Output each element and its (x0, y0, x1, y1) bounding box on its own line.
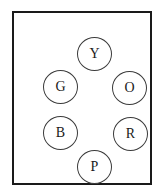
circle-node-b[interactable]: B (43, 116, 78, 150)
circle-label-y: Y (89, 47, 99, 61)
diagram-canvas: Y G O B R P (0, 0, 164, 195)
circle-node-g[interactable]: G (43, 70, 78, 104)
circle-node-y[interactable]: Y (77, 37, 112, 71)
circle-node-p[interactable]: P (77, 150, 112, 184)
diagram-frame-rectangle: Y G O B R P (12, 11, 152, 185)
circle-label-o: O (124, 81, 134, 95)
circle-node-o[interactable]: O (112, 71, 147, 105)
circle-label-g: G (55, 80, 65, 94)
circle-label-p: P (91, 160, 99, 174)
circle-label-r: R (126, 127, 135, 141)
circle-label-b: B (56, 126, 65, 140)
circle-node-r[interactable]: R (113, 117, 148, 151)
